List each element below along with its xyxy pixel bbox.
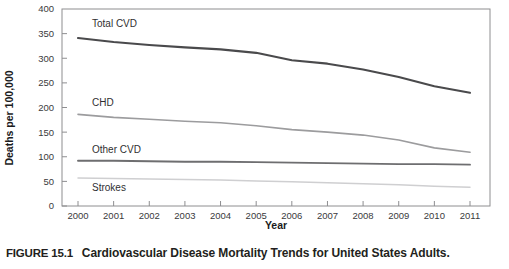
y-tick-label: 100 bbox=[38, 151, 54, 162]
x-axis-ticks: 2000200120022003200420052006200720082009… bbox=[67, 201, 480, 221]
x-tick-label: 2010 bbox=[424, 210, 445, 221]
figure-caption-text: Cardiovascular Disease Mortality Trends … bbox=[82, 246, 450, 260]
y-axis-ticks: 050100150200250300350400 bbox=[38, 3, 67, 211]
series-label-strokes: Strokes bbox=[92, 182, 126, 193]
plot-frame bbox=[62, 9, 490, 206]
figure-container: 050100150200250300350400 200020012002200… bbox=[0, 0, 509, 269]
figure-caption: FIGURE 15.1 Cardiovascular Disease Morta… bbox=[6, 246, 506, 260]
y-tick-label: 300 bbox=[38, 53, 54, 64]
x-axis-title: Year bbox=[265, 219, 287, 231]
x-tick-label: 2009 bbox=[388, 210, 409, 221]
y-tick-label: 0 bbox=[49, 200, 54, 211]
x-tick-label: 2005 bbox=[246, 210, 267, 221]
figure-number: FIGURE 15.1 bbox=[6, 247, 73, 259]
chart-area: 050100150200250300350400 200020012002200… bbox=[0, 0, 509, 232]
y-tick-label: 400 bbox=[38, 3, 54, 14]
x-tick-label: 2003 bbox=[174, 210, 195, 221]
x-tick-label: 2007 bbox=[317, 210, 338, 221]
series-label-other-cvd: Other CVD bbox=[92, 144, 141, 155]
y-tick-label: 350 bbox=[38, 28, 54, 39]
series-lines bbox=[78, 38, 470, 187]
x-tick-label: 2011 bbox=[460, 210, 480, 221]
series-line bbox=[78, 161, 470, 165]
y-axis-title: Deaths per 100,000 bbox=[3, 70, 15, 165]
series-line bbox=[78, 38, 470, 93]
x-tick-label: 2000 bbox=[67, 210, 88, 221]
x-tick-label: 2001 bbox=[103, 210, 124, 221]
x-tick-label: 2004 bbox=[210, 210, 231, 221]
x-tick-label: 2002 bbox=[139, 210, 160, 221]
series-label-total-cvd: Total CVD bbox=[92, 18, 137, 29]
x-tick-label: 2008 bbox=[353, 210, 374, 221]
mortality-trends-line-chart: 050100150200250300350400 200020012002200… bbox=[0, 0, 509, 232]
y-tick-label: 50 bbox=[43, 176, 54, 187]
y-tick-label: 250 bbox=[38, 77, 54, 88]
series-label-chd: CHD bbox=[92, 97, 114, 108]
y-tick-label: 150 bbox=[38, 127, 54, 138]
series-line bbox=[78, 178, 470, 187]
y-tick-label: 200 bbox=[38, 102, 54, 113]
